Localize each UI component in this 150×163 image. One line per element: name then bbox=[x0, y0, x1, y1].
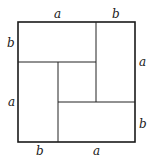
label-top-b: b bbox=[112, 7, 120, 21]
label-left-a: a bbox=[8, 95, 15, 109]
pinwheel-square-diagram: a b b a a b b a bbox=[0, 0, 150, 163]
label-top-a: a bbox=[54, 7, 61, 21]
label-right-b: b bbox=[139, 117, 147, 131]
label-bottom-a: a bbox=[93, 144, 100, 158]
label-right-a: a bbox=[139, 55, 146, 69]
outer-square bbox=[18, 22, 135, 142]
label-left-b: b bbox=[7, 36, 15, 50]
label-bottom-b: b bbox=[36, 144, 44, 158]
